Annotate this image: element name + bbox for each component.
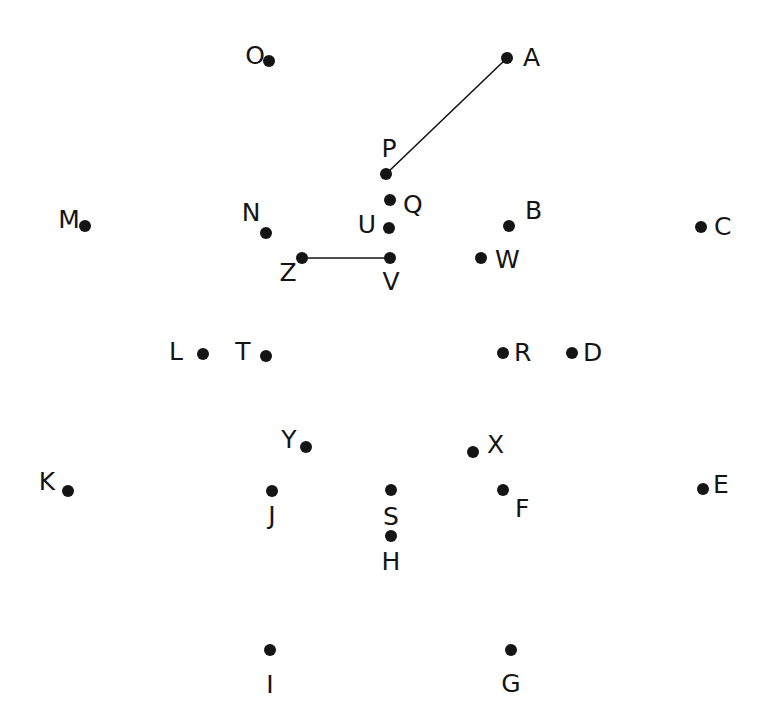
node-label: G [501,669,520,698]
node-label: J [266,501,275,530]
node-label: N [242,198,261,227]
node-label: U [358,210,376,239]
graph-node[interactable]: E [697,470,729,499]
graph-node[interactable]: B [503,196,542,232]
graph-node[interactable]: G [501,644,520,698]
graph-node[interactable]: C [695,212,731,241]
node-dot[interactable] [467,446,479,458]
graph-canvas: AOPQMNUBCWZVLTRDYXKEJFSHIG [0,0,771,727]
node-label: C [714,212,731,241]
edges-layer [302,58,507,258]
node-dot[interactable] [475,252,487,264]
node-dot[interactable] [497,484,509,496]
node-label: V [382,267,399,296]
node-label: P [381,134,396,163]
node-label: R [514,338,531,367]
graph-node[interactable]: X [467,430,504,459]
graph-node[interactable]: N [242,198,272,239]
node-label: X [487,430,504,459]
node-label: K [39,467,56,496]
node-dot[interactable] [697,483,709,495]
graph-svg: AOPQMNUBCWZVLTRDYXKEJFSHIG [0,0,771,727]
graph-node[interactable]: O [245,41,275,70]
node-dot[interactable] [296,252,308,264]
node-dot[interactable] [380,168,392,180]
node-label: M [58,205,80,234]
graph-node[interactable]: M [58,205,91,234]
graph-node[interactable]: H [382,530,401,576]
node-dot[interactable] [264,644,276,656]
node-dot[interactable] [300,441,312,453]
node-label: Z [279,258,296,287]
node-dot[interactable] [505,644,517,656]
node-dot[interactable] [260,227,272,239]
graph-node[interactable]: U [358,210,395,239]
graph-node[interactable]: R [497,338,531,367]
node-label: O [245,41,265,70]
node-dot[interactable] [385,484,397,496]
node-label: B [525,196,542,225]
node-label: F [515,494,529,523]
graph-node[interactable]: J [266,485,278,530]
node-label: L [169,337,183,366]
node-dot[interactable] [503,220,515,232]
graph-edge[interactable] [386,58,507,174]
graph-node[interactable]: F [497,484,529,523]
node-dot[interactable] [79,220,91,232]
node-label: A [523,43,540,72]
node-dot[interactable] [497,347,509,359]
node-label: E [713,470,729,499]
node-dot[interactable] [385,530,397,542]
graph-node[interactable]: V [382,252,399,296]
node-label: Q [403,190,423,219]
node-dot[interactable] [62,485,74,497]
graph-node[interactable]: I [264,644,276,699]
node-label: Y [280,425,297,454]
node-label: D [583,338,602,367]
node-dot[interactable] [197,348,209,360]
node-label: W [495,245,520,274]
graph-node[interactable]: Q [384,190,423,219]
node-label: S [383,502,399,531]
nodes-layer: AOPQMNUBCWZVLTRDYXKEJFSHIG [39,41,732,699]
graph-node[interactable]: Z [279,252,308,287]
node-dot[interactable] [384,194,396,206]
node-dot[interactable] [695,221,707,233]
node-dot[interactable] [383,222,395,234]
node-dot[interactable] [266,485,278,497]
node-label: H [382,547,401,576]
node-dot[interactable] [566,347,578,359]
node-dot[interactable] [384,252,396,264]
graph-node[interactable]: D [566,338,602,367]
graph-node[interactable]: P [380,134,397,180]
graph-node[interactable]: W [475,245,520,274]
graph-node[interactable]: S [383,484,399,531]
graph-node[interactable]: T [234,337,272,366]
graph-node[interactable]: A [501,43,540,72]
node-label: T [234,337,251,366]
graph-node[interactable]: L [169,337,209,366]
node-label: I [266,670,273,699]
node-dot[interactable] [260,350,272,362]
graph-node[interactable]: K [39,467,74,497]
graph-node[interactable]: Y [280,425,312,454]
node-dot[interactable] [501,52,513,64]
